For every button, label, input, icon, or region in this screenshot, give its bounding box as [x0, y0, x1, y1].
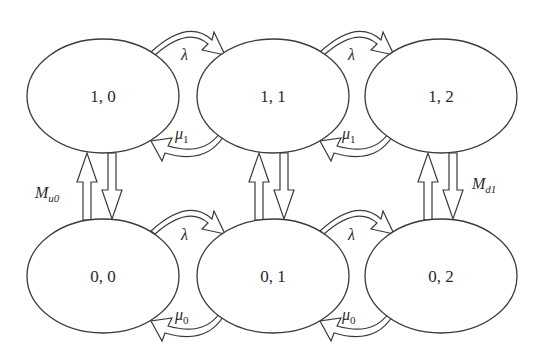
arrow-up-02-to-12 [418, 153, 438, 220]
state-label: 0, 2 [428, 267, 454, 286]
state-0-1: 0, 1 [197, 219, 349, 333]
arrow-lambda-00-to-01 [151, 210, 225, 234]
rate-md1-vertical: Md1 [471, 175, 496, 195]
arrow-lambda-10-to-11 [151, 31, 225, 55]
arrow-down-12-to-02 [443, 153, 463, 219]
markov-state-diagram: 1, 0 1, 1 1, 2 0, 0 0, 1 0, 2 λ μ1 λ μ1 … [0, 0, 541, 360]
state-0-0: 0, 0 [27, 219, 179, 333]
state-1-0: 1, 0 [27, 39, 179, 153]
rate-lambda: λ [180, 46, 188, 63]
state-label: 0, 0 [90, 267, 116, 286]
rate-mu0: μ0 [341, 306, 356, 326]
state-0-2: 0, 2 [365, 219, 517, 333]
arrow-down-10-to-00 [102, 153, 122, 219]
rate-mu1: μ1 [341, 125, 356, 145]
arrow-down-11-to-01 [274, 153, 294, 219]
state-label: 1, 2 [428, 87, 454, 106]
arrow-mu1-12-to-11 [320, 134, 392, 161]
arrow-up-00-to-10 [77, 153, 97, 220]
state-1-2: 1, 2 [365, 39, 517, 153]
arrow-lambda-11-to-12 [320, 31, 394, 55]
rate-lambda: λ [180, 226, 188, 243]
arrow-lambda-01-to-02 [320, 210, 394, 234]
rate-mu0: μ0 [174, 306, 189, 326]
arrow-up-01-to-11 [249, 153, 269, 220]
rate-mu0-vertical: Mu0 [34, 184, 60, 204]
arrow-mu0-02-to-01 [320, 314, 392, 341]
rate-lambda: λ [347, 226, 355, 243]
state-label: 1, 0 [90, 87, 116, 106]
state-label: 0, 1 [260, 267, 286, 286]
state-1-1: 1, 1 [197, 39, 349, 153]
rate-mu1: μ1 [174, 125, 189, 145]
rate-lambda: λ [347, 46, 355, 63]
state-label: 1, 1 [260, 87, 286, 106]
